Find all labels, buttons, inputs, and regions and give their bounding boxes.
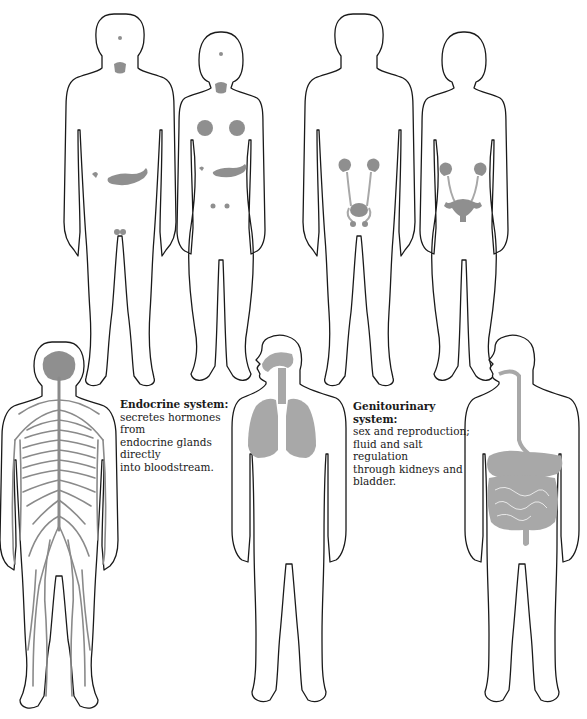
endocrine-caption: Endocrine system: secretes hormones from… (120, 398, 245, 473)
endocrine-male-figure (58, 12, 188, 392)
endocrine-caption-line: secretes hormones from (120, 411, 245, 436)
nervous-system-figure (0, 340, 120, 715)
respiratory-system-figure (228, 334, 353, 709)
genitourinary-caption-line: sex and reproduction; (353, 425, 473, 438)
genitourinary-caption: Genitourinary system: sex and reproducti… (353, 400, 473, 488)
genitourinary-caption-line: fluid and salt regulation (353, 438, 473, 463)
endocrine-caption-line: into bloodstream. (120, 461, 245, 474)
endocrine-caption-line: endocrine glands directly (120, 436, 245, 461)
genitourinary-caption-line: through kidneys and (353, 463, 473, 476)
body-systems-diagram: Endocrine system: secretes hormones from… (0, 0, 587, 719)
digestive-system-figure (463, 334, 587, 709)
endocrine-caption-title: Endocrine system: (120, 398, 245, 411)
genitourinary-caption-title: Genitourinary system: (353, 400, 473, 425)
genitourinary-caption-line: bladder. (353, 475, 473, 488)
